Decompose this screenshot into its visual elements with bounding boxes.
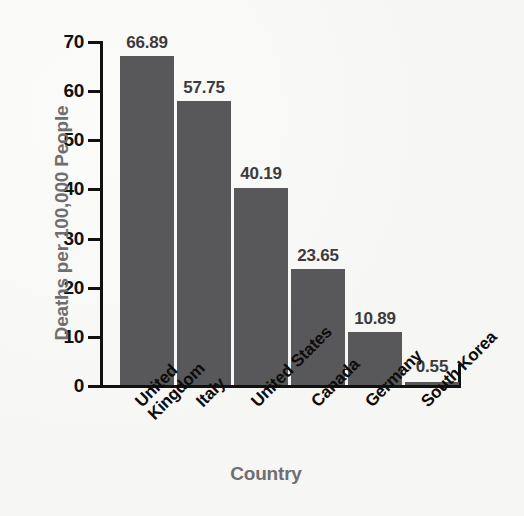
bar-chart-figure: 0 10 20 30 40 50 60 70 — [0, 0, 524, 516]
bar-value-germany: 10.89 — [340, 309, 410, 329]
bar-value-canada: 23.65 — [283, 246, 353, 266]
bar-united-states — [234, 188, 288, 386]
y-tick-0 — [88, 385, 101, 388]
plot-area: 0 10 20 30 40 50 60 70 — [0, 0, 524, 516]
bar-united-kingdom — [120, 56, 174, 385]
y-tick-40 — [88, 188, 101, 191]
y-tick-label-70-wrap: 70 — [28, 31, 84, 53]
y-tick-label-70: 70 — [32, 31, 84, 53]
y-tick-30 — [88, 238, 101, 241]
bar-value-italy: 57.75 — [169, 78, 239, 98]
y-tick-label-0-wrap: 0 — [28, 375, 84, 397]
y-tick-70 — [88, 41, 101, 44]
x-axis-title: Country — [196, 463, 336, 485]
bar-value-united-states: 40.19 — [226, 164, 296, 184]
y-axis-title: Deaths per 100,000 People — [51, 73, 73, 373]
y-tick-20 — [88, 287, 101, 290]
y-tick-10 — [88, 336, 101, 339]
y-tick-label-0: 0 — [32, 375, 84, 397]
bar-value-united-kingdom: 66.89 — [112, 33, 182, 53]
y-tick-60 — [88, 90, 101, 93]
bar-italy — [177, 101, 231, 385]
y-tick-50 — [88, 139, 101, 142]
